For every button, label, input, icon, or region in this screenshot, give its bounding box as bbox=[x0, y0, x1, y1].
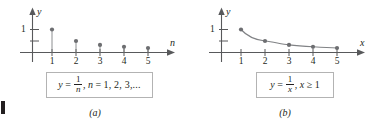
y-tick-label-1-b: 1 bbox=[210, 25, 215, 35]
figure-container: y n 1 1 2 3 4 5 y = 1 n , n = 1, 2, 3,.. bbox=[0, 0, 381, 126]
data-point bbox=[239, 27, 243, 31]
stem-group-a bbox=[52, 30, 148, 53]
x-axis-arrowhead-b bbox=[357, 49, 365, 55]
equation-comma-a: , bbox=[83, 80, 86, 90]
data-point bbox=[263, 39, 267, 43]
equation-box-a: y = 1 n , n = 1, 2, 3,... bbox=[46, 72, 153, 98]
x-tick-label-5-b: 5 bbox=[330, 57, 344, 67]
fraction-a: 1 n bbox=[74, 75, 82, 95]
x-tick-label-4-a: 4 bbox=[117, 57, 131, 67]
data-point bbox=[287, 43, 291, 47]
data-point bbox=[50, 27, 54, 31]
panel-b: y x 1 1 2 3 4 5 y = 1 x , x ≥ 1 (b) bbox=[190, 0, 380, 126]
y-tick-label-1-a: 1 bbox=[21, 25, 26, 35]
x-tick-label-2-b: 2 bbox=[258, 57, 272, 67]
data-point bbox=[122, 45, 126, 49]
data-point bbox=[74, 39, 78, 43]
y-axis-arrowhead-b bbox=[218, 8, 224, 16]
equation-domain-var-a: n bbox=[88, 80, 93, 90]
x-tick-label-3-b: 3 bbox=[282, 57, 296, 67]
equation-a: y = 1 n , n = 1, 2, 3,... bbox=[58, 75, 140, 95]
y-axis-arrowhead-a bbox=[29, 8, 35, 16]
x-axis-label-b: x bbox=[360, 38, 364, 48]
y-axis-label-a: y bbox=[37, 7, 41, 17]
equation-equals-b: = bbox=[277, 80, 283, 90]
equation-domain-equals-a: = bbox=[95, 80, 101, 90]
x-tick-label-4-b: 4 bbox=[306, 57, 320, 67]
equation-domain-values-a: 1, 2, 3,... bbox=[104, 80, 141, 90]
fraction-denominator-b: x bbox=[287, 85, 294, 94]
x-tick-label-5-a: 5 bbox=[141, 57, 155, 67]
caption-b: (b) bbox=[190, 108, 380, 118]
equation-box-b: y = 1 x , x ≥ 1 bbox=[256, 72, 334, 98]
equation-domain-bound-b: 1 bbox=[315, 80, 320, 90]
data-point bbox=[335, 46, 339, 50]
fraction-numerator-b: 1 bbox=[286, 75, 294, 84]
page-edge-mark bbox=[1, 101, 5, 114]
y-axis-label-b: y bbox=[226, 7, 230, 17]
x-tick-label-1-a: 1 bbox=[45, 57, 59, 67]
x-axis-label-a: n bbox=[170, 38, 175, 48]
fraction-numerator-a: 1 bbox=[74, 75, 82, 84]
x-tick-label-2-a: 2 bbox=[69, 57, 83, 67]
x-axis-arrowhead-a bbox=[167, 49, 175, 55]
data-point bbox=[311, 45, 315, 49]
data-point-group-a bbox=[50, 27, 150, 50]
fraction-denominator-a: n bbox=[74, 85, 82, 94]
x-tick-label-3-a: 3 bbox=[93, 57, 107, 67]
equation-domain-relation-b: ≥ bbox=[307, 80, 313, 90]
x-tick-label-1-b: 1 bbox=[234, 57, 248, 67]
equation-b: y = 1 x , x ≥ 1 bbox=[270, 75, 320, 95]
data-point bbox=[98, 43, 102, 47]
panel-a: y n 1 1 2 3 4 5 y = 1 n , n = 1, 2, 3,.. bbox=[0, 0, 190, 126]
equation-domain-var-b: x bbox=[300, 80, 304, 90]
equation-comma-b: , bbox=[295, 80, 298, 90]
equation-equals-a: = bbox=[65, 80, 71, 90]
fraction-b: 1 x bbox=[286, 75, 294, 95]
caption-a: (a) bbox=[0, 108, 190, 118]
equation-lhs-a: y bbox=[58, 80, 62, 90]
equation-lhs-b: y bbox=[270, 80, 274, 90]
data-point bbox=[146, 46, 150, 50]
